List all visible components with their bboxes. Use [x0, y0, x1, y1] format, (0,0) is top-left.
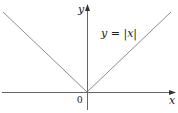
- abs-value-graph: y x 0 y = |x|: [0, 0, 178, 113]
- x-axis-label: x: [169, 94, 176, 107]
- y-axis-label: y: [77, 3, 85, 16]
- y-axis-arrow-icon: [85, 4, 90, 11]
- curve-label: y = |x|: [100, 27, 137, 41]
- origin-label: 0: [77, 93, 83, 105]
